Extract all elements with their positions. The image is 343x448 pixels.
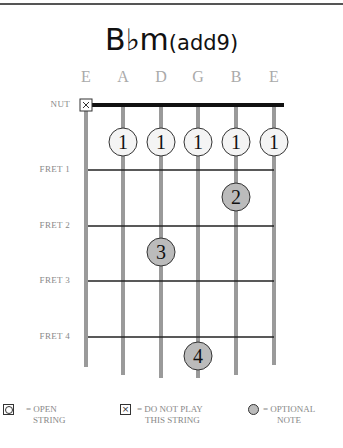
svg-text:4: 4 — [193, 345, 203, 367]
legend-text: NOTE — [248, 415, 343, 426]
svg-text:1: 1 — [269, 131, 279, 153]
legend-muted-string: × = DO NOT PLAY THIS STRING — [120, 404, 230, 426]
finger-dot-1: 1 — [184, 128, 212, 156]
legend-text: = OPEN — [3, 404, 103, 415]
legend-text: = OPTIONAL — [248, 404, 343, 415]
legend-text: STRING — [3, 415, 103, 426]
svg-text:1: 1 — [193, 131, 203, 153]
finger-dot-4: 4 — [184, 342, 212, 370]
finger-dot-1: 1 — [222, 128, 250, 156]
muted-string-icon: × — [120, 404, 131, 415]
svg-text:1: 1 — [231, 131, 241, 153]
finger-dot-1: 1 — [260, 128, 288, 156]
finger-dot-2: 2 — [222, 183, 250, 211]
finger-dot-1: 1 — [147, 128, 175, 156]
finger-dot-1: 1 — [109, 128, 137, 156]
legend-text: = DO NOT PLAY — [120, 404, 230, 415]
muted-marker-icon — [80, 99, 92, 111]
svg-text:1: 1 — [118, 131, 128, 153]
finger-dot-3: 3 — [147, 238, 175, 266]
svg-text:2: 2 — [231, 186, 241, 208]
open-string-icon — [3, 404, 14, 415]
optional-note-icon — [248, 404, 259, 415]
svg-text:3: 3 — [156, 241, 166, 263]
fretboard: 1 1 1 1 1 2 3 4 — [0, 0, 343, 448]
legend-text: THIS STRING — [120, 415, 230, 426]
svg-text:1: 1 — [156, 131, 166, 153]
legend-open-string: = OPEN STRING — [3, 404, 103, 426]
legend-optional-note: = OPTIONAL NOTE — [248, 404, 343, 426]
